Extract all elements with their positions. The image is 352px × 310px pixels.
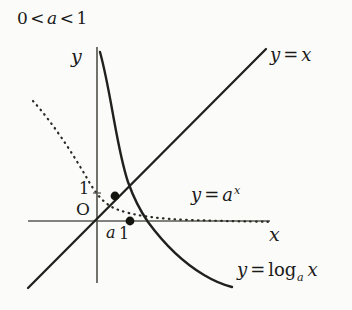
identity-line-label: y=x — [270, 46, 311, 64]
condition-label: 0<a<1 — [17, 10, 88, 27]
log-label-base: a — [297, 271, 304, 284]
condition-base: a — [47, 8, 58, 28]
log-label-arg: x — [308, 259, 318, 280]
math-figure: 0<a<1 y x O 1 a 1 y=x y=ax y=logax — [0, 0, 352, 310]
intersection-upper-dot — [111, 192, 120, 201]
x-tick-one-label: 1 — [119, 226, 129, 242]
exponential-curve-label: y=ax — [191, 186, 240, 204]
exp-label-base: a — [222, 184, 233, 205]
origin-label: O — [76, 201, 90, 218]
condition-lhs: 0 — [17, 8, 28, 28]
x-tick-a-label: a — [106, 225, 116, 241]
logarithm-curve-label: y=logax — [237, 261, 318, 279]
exp-label-eq: = — [201, 184, 222, 205]
log-label-fn: log — [268, 259, 296, 280]
logarithm-curve — [100, 52, 232, 287]
exp-label-exponent: x — [234, 184, 240, 197]
y-axis-label: y — [71, 47, 82, 66]
log-label-y: y — [237, 259, 247, 280]
x-axis-label: x — [269, 225, 280, 244]
condition-op1: < — [28, 8, 47, 28]
exp-label-y: y — [191, 184, 201, 205]
condition-rhs: 1 — [76, 8, 87, 28]
identity-label-y: y — [270, 44, 280, 65]
identity-line-curve — [28, 49, 266, 288]
y-tick-one-label: 1 — [79, 181, 89, 197]
condition-op2: < — [58, 8, 77, 28]
identity-label-eq: = — [280, 44, 301, 65]
identity-label-x: x — [301, 44, 311, 65]
log-label-eq: = — [247, 259, 268, 280]
